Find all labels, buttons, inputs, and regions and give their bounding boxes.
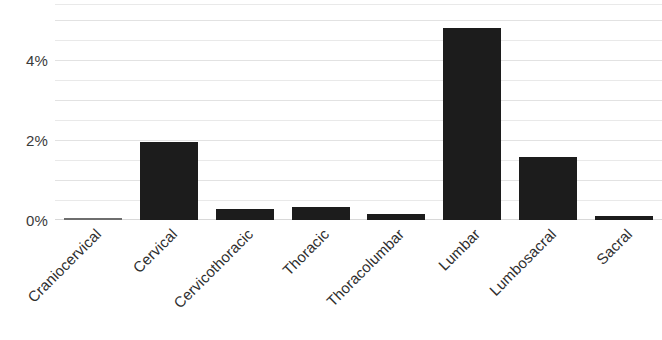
bar-craniocervical[interactable] bbox=[64, 218, 122, 220]
y-tick-label-4: 4% bbox=[26, 53, 48, 68]
bar-cervicothoracic[interactable] bbox=[216, 209, 274, 220]
x-axis-tick-labels: Craniocervical Cervical Cervicothoracic … bbox=[55, 222, 662, 340]
bar-lumbosacral[interactable] bbox=[519, 157, 577, 220]
x-label-slot: Sacral bbox=[586, 222, 662, 340]
x-tick-label-cervical: Cervical bbox=[130, 226, 179, 275]
bar-thoracic[interactable] bbox=[292, 207, 350, 220]
x-tick-label-thoracic: Thoracic bbox=[279, 226, 331, 278]
x-label-slot: Craniocervical bbox=[55, 222, 131, 340]
bar-slot bbox=[283, 0, 359, 220]
y-tick-label-0: 0% bbox=[26, 213, 48, 228]
bar-sacral[interactable] bbox=[595, 216, 653, 220]
x-tick-label-craniocervical: Craniocervical bbox=[25, 226, 104, 305]
bar-slot bbox=[510, 0, 586, 220]
x-tick-label-lumbar: Lumbar bbox=[436, 226, 483, 273]
bar-cervical[interactable] bbox=[140, 142, 198, 220]
y-tick-label-2: 2% bbox=[26, 133, 48, 148]
bar-slot bbox=[434, 0, 510, 220]
x-label-slot: Cervicothoracic bbox=[207, 222, 283, 340]
bar-slot bbox=[359, 0, 435, 220]
bar-thoracolumbar[interactable] bbox=[367, 214, 425, 220]
bar-slot bbox=[131, 0, 207, 220]
bar-slot bbox=[586, 0, 662, 220]
x-label-slot: Thoracolumbar bbox=[359, 222, 435, 340]
bar-slot bbox=[207, 0, 283, 220]
bar-slot bbox=[55, 0, 131, 220]
plot-area bbox=[55, 0, 662, 220]
bar-chart: 4% 2% 0% bbox=[0, 0, 662, 340]
bar-lumbar[interactable] bbox=[443, 28, 501, 220]
bar-series bbox=[55, 0, 662, 220]
x-tick-label-sacral: Sacral bbox=[594, 226, 635, 267]
x-label-slot: Lumbosacral bbox=[510, 222, 586, 340]
